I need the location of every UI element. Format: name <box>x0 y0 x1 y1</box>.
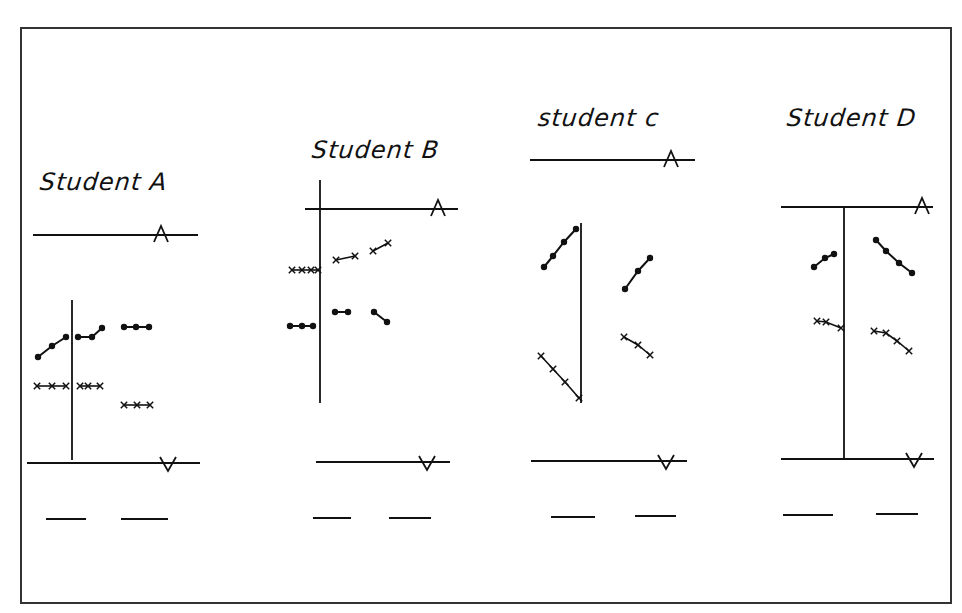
dot-marker-icon <box>909 270 915 276</box>
dot-marker-icon <box>896 260 902 266</box>
dot-series-line <box>876 240 912 273</box>
dot-marker-icon <box>635 268 641 274</box>
cross-marker-icon <box>538 353 544 359</box>
dot-marker-icon <box>647 255 653 261</box>
dot-marker-icon <box>99 325 105 331</box>
dot-marker-icon <box>550 253 556 259</box>
dot-marker-icon <box>811 264 817 270</box>
dot-marker-icon <box>384 319 390 325</box>
panel-student-d <box>781 198 934 515</box>
dot-marker-icon <box>310 323 316 329</box>
dot-marker-icon <box>35 354 41 360</box>
dot-marker-icon <box>121 324 127 330</box>
dot-marker-icon <box>822 255 828 261</box>
dot-marker-icon <box>573 226 579 232</box>
panel-title-student-c: student c <box>537 104 662 132</box>
panel-title-student-a: Student A <box>39 168 169 196</box>
dot-marker-icon <box>299 323 305 329</box>
dot-series-line <box>544 229 576 267</box>
dot-marker-icon <box>345 309 351 315</box>
dot-marker-icon <box>831 251 837 257</box>
diagram-canvas <box>0 0 962 613</box>
dot-marker-icon <box>371 309 377 315</box>
panel-student-c <box>530 151 695 517</box>
dot-marker-icon <box>63 334 69 340</box>
dot-marker-icon <box>883 248 889 254</box>
cross-marker-icon <box>621 334 627 340</box>
dot-marker-icon <box>133 324 139 330</box>
cross-marker-icon <box>370 248 376 254</box>
dot-marker-icon <box>561 239 567 245</box>
student-panels <box>27 151 934 519</box>
dot-marker-icon <box>75 334 81 340</box>
dot-marker-icon <box>541 264 547 270</box>
panel-title-student-b: Student B <box>311 136 442 164</box>
dot-marker-icon <box>873 237 879 243</box>
dot-marker-icon <box>622 286 628 292</box>
panel-student-b <box>287 180 458 518</box>
dot-marker-icon <box>49 343 55 349</box>
cross-series-line <box>541 356 579 398</box>
panel-student-a <box>27 226 200 519</box>
dot-marker-icon <box>287 323 293 329</box>
dot-marker-icon <box>89 334 95 340</box>
cross-marker-icon <box>647 352 653 358</box>
cross-marker-icon <box>894 338 900 344</box>
cross-marker-icon <box>550 366 556 372</box>
dot-marker-icon <box>146 324 152 330</box>
cross-marker-icon <box>385 240 391 246</box>
panel-title-student-d: Student D <box>786 104 919 132</box>
cross-marker-icon <box>562 379 568 385</box>
cross-marker-icon <box>635 342 641 348</box>
dot-marker-icon <box>332 309 338 315</box>
cross-marker-icon <box>906 348 912 354</box>
cross-series-line <box>874 331 909 351</box>
